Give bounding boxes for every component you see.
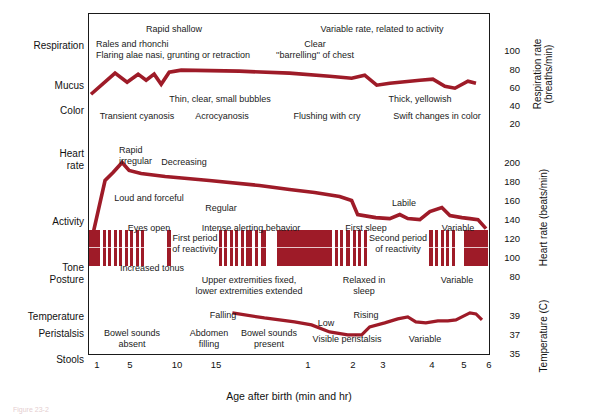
right-axis-group: 100 80 60 40 20 200 180 160 140 120 100 … bbox=[492, 0, 593, 419]
annotation-relaxed-in-sleep: Relaxed in sleep bbox=[343, 275, 386, 296]
resp-tick-80: 80 bbox=[494, 65, 520, 75]
hr-tick-140: 140 bbox=[494, 215, 520, 225]
axis-title-respiration-rate: Respiration rate (breaths/min) bbox=[532, 14, 554, 134]
resp-tick-100: 100 bbox=[494, 46, 520, 56]
annotation-swift-changes-in-color: Swift changes in color bbox=[393, 111, 481, 122]
plot-area: First period of reactivity Second period… bbox=[88, 13, 490, 355]
annotation-variable-activity: Variable bbox=[442, 223, 474, 234]
row-label-activity: Activity bbox=[52, 216, 84, 228]
x-tick-1hr: 1 bbox=[305, 360, 310, 370]
row-label-stools: Stools bbox=[56, 354, 84, 366]
figure-newborn-adaptation: Respiration Mucus Color Heart rate Activ… bbox=[0, 0, 593, 419]
annotation-regular: Regular bbox=[205, 203, 237, 214]
axis-title-heart-rate: Heart rate (beats/min) bbox=[538, 145, 549, 290]
figure-caption: Figure 23-2 bbox=[13, 406, 49, 413]
annotation-low: Low bbox=[318, 318, 335, 329]
annotation-flushing-with-cry: Flushing with cry bbox=[293, 111, 360, 122]
row-label-temperature: Temperature bbox=[28, 311, 84, 323]
row-label-mucus: Mucus bbox=[55, 80, 84, 92]
x-tick-4hr: 4 bbox=[429, 360, 434, 370]
temperature-curve bbox=[89, 14, 489, 354]
annotation-intense-alerting-behavior: Intense alerting behavior bbox=[202, 223, 301, 234]
hr-tick-100: 100 bbox=[494, 253, 520, 263]
annotation-rapid-shallow: Rapid shallow bbox=[146, 24, 202, 35]
annotation-variable-peristalsis: Variable bbox=[409, 334, 441, 345]
row-label-respiration: Respiration bbox=[33, 40, 84, 52]
band-label-second-period: Second period of reactivity bbox=[367, 233, 429, 254]
annotation-lower-extremities-extended: lower extremities extended bbox=[195, 286, 302, 297]
temp-tick-37: 37 bbox=[494, 330, 520, 340]
annotation-barrelling-of-chest: ''barrelling'' of chest bbox=[276, 50, 354, 61]
hr-tick-120: 120 bbox=[494, 234, 520, 244]
annotation-decreasing: Decreasing bbox=[161, 157, 207, 168]
resp-tick-40: 40 bbox=[494, 101, 520, 111]
band-label-first-period: First period of reactivity bbox=[171, 233, 219, 254]
x-tick-10min: 10 bbox=[172, 360, 183, 370]
heart-rate-curve bbox=[89, 14, 489, 354]
annotation-visible-peristalsis: Visible peristalsis bbox=[313, 334, 382, 345]
annotation-falling: Falling bbox=[210, 310, 237, 321]
row-label-heart-rate: Heart rate bbox=[60, 148, 84, 171]
hr-tick-200: 200 bbox=[494, 158, 520, 168]
annotation-labile: Labile bbox=[392, 198, 416, 209]
annotation-present-at-delivery: Present at delivery bbox=[96, 354, 171, 355]
axis-title-temperature: Temperature (C) bbox=[538, 276, 549, 396]
annotation-rapid-irregular: Rapid irregular bbox=[119, 145, 152, 166]
annotation-increased-tonus: Increased tonus bbox=[120, 263, 184, 274]
x-axis-title: Age after birth (min and hr) bbox=[226, 390, 351, 402]
resp-tick-60: 60 bbox=[494, 83, 520, 93]
row-label-tone: Tone bbox=[62, 262, 84, 274]
row-label-posture: Posture bbox=[50, 274, 84, 286]
x-tick-5hr: 5 bbox=[461, 360, 466, 370]
respiration-curve bbox=[89, 14, 489, 354]
temp-tick-35: 35 bbox=[494, 349, 520, 359]
x-tick-3hr: 3 bbox=[380, 360, 385, 370]
annotation-transient-cyanosis: Transient cyanosis bbox=[100, 111, 175, 122]
annotation-rising: Rising bbox=[353, 310, 378, 321]
hr-tick-80: 80 bbox=[494, 272, 520, 282]
annotation-meconium-passage: Meconium passage bbox=[354, 354, 432, 355]
annotation-thick-yellowish: Thick, yellowish bbox=[388, 94, 451, 105]
annotation-variable-rate: Variable rate, related to activity bbox=[321, 24, 444, 35]
hr-tick-160: 160 bbox=[494, 196, 520, 206]
annotation-abdomen-filling: Abdomen filling bbox=[190, 328, 229, 349]
annotation-bowel-sounds-absent: Bowel sounds absent bbox=[104, 328, 160, 349]
annotation-loud-and-forceful: Loud and forceful bbox=[114, 193, 184, 204]
temp-tick-39: 39 bbox=[494, 311, 520, 321]
hr-tick-180: 180 bbox=[494, 177, 520, 187]
annotation-upper-extremities-fixed: Upper extremities fixed, bbox=[202, 275, 297, 286]
annotation-flaring-alae-nasi: Flaring alae nasi, grunting or retractio… bbox=[96, 50, 250, 61]
annotation-first-sleep: First sleep bbox=[345, 223, 387, 234]
x-tick-15min: 15 bbox=[211, 360, 222, 370]
row-label-color: Color bbox=[60, 105, 84, 117]
x-tick-6hr: 6 bbox=[486, 360, 491, 370]
annotation-rales-and-rhonchi: Rales and rhonchi bbox=[96, 39, 169, 50]
annotation-thin-clear-bubbles: Thin, clear, small bubbles bbox=[169, 94, 271, 105]
x-tick-2hr: 2 bbox=[350, 360, 355, 370]
annotation-acrocyanosis: Acrocyanosis bbox=[195, 111, 249, 122]
annotation-variable-tone: Variable bbox=[441, 275, 473, 286]
row-label-peristalsis: Peristalsis bbox=[38, 328, 84, 340]
annotation-bowel-sounds-present: Bowel sounds present bbox=[241, 328, 297, 349]
annotation-clear: Clear bbox=[304, 39, 326, 50]
x-tick-1min: 1 bbox=[94, 360, 99, 370]
row-label-gutter: Respiration Mucus Color Heart rate Activ… bbox=[0, 0, 84, 419]
annotation-eyes-open: Eyes open bbox=[128, 223, 171, 234]
x-tick-5min: 5 bbox=[127, 360, 132, 370]
resp-tick-20: 20 bbox=[494, 119, 520, 129]
